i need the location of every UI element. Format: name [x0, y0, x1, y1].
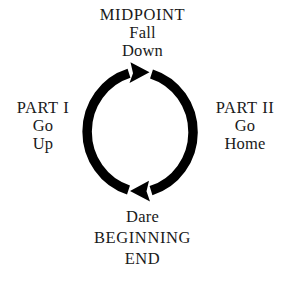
label-part-two-line2: Go [206, 117, 284, 135]
label-beginning-end-line2: BEGINNING [0, 229, 288, 247]
label-part-two-line3: Home [206, 135, 284, 153]
label-midpoint: MIDPOINT Fall Down [0, 6, 288, 59]
cycle-arrow-circle [66, 56, 214, 208]
arrow-head-bottom-icon [130, 181, 150, 202]
label-part-two: PART II Go Home [206, 99, 284, 152]
label-beginning-end-line3: END [0, 250, 288, 268]
label-midpoint-line1: MIDPOINT [0, 6, 288, 24]
label-part-two-line1: PART II [206, 99, 284, 117]
cycle-arc-left [87, 73, 129, 190]
label-beginning-end: Dare BEGINNING END [0, 208, 288, 267]
label-beginning-end-line1: Dare [0, 208, 288, 226]
label-midpoint-line2: Fall [0, 24, 288, 42]
arrow-head-top-icon [130, 62, 150, 83]
cycle-arc-right [151, 74, 193, 191]
diagram-canvas: MIDPOINT Fall Down PART I Go Up PART II … [0, 0, 288, 285]
